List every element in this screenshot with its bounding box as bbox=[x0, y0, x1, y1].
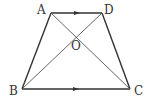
side-dc bbox=[102, 13, 130, 89]
side-ab bbox=[22, 13, 51, 89]
vertex-label-o: O bbox=[71, 40, 81, 52]
parallel-arrow-icon bbox=[73, 87, 79, 91]
vertex-label-a: A bbox=[37, 4, 46, 16]
parallel-arrow-icon bbox=[74, 11, 80, 15]
vertex-label-c: C bbox=[134, 85, 143, 97]
vertex-label-b: B bbox=[9, 85, 18, 97]
trapezoid-diagram: A D O B C bbox=[0, 0, 153, 108]
vertex-label-d: D bbox=[104, 4, 114, 16]
trapezoid-figure bbox=[0, 0, 153, 108]
